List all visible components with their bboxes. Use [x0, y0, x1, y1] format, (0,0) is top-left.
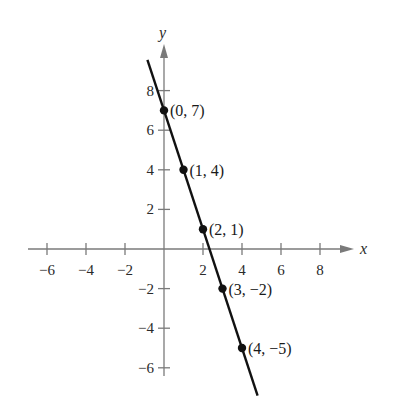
y-axis-label: y [157, 24, 167, 42]
x-tick-label: 4 [238, 262, 246, 278]
data-point [160, 106, 168, 114]
y-axis-arrow-icon [160, 44, 168, 58]
y-tick-label: 4 [147, 162, 155, 178]
y-tick-label: 6 [147, 122, 155, 138]
data-point [199, 225, 207, 233]
cartesian-plot: xy −6−4−224688642−2−4−6 (0, 7)(1, 4)(2, … [0, 0, 404, 401]
ticks: −6−4−224688642−2−4−6 [39, 83, 324, 376]
data-points: (0, 7)(1, 4)(2, 1)(3, −2)(4, −5) [160, 102, 292, 358]
point-label: (3, −2) [229, 281, 273, 299]
x-axis-label: x [359, 240, 367, 257]
y-tick-label: −2 [138, 281, 154, 297]
data-point [238, 344, 246, 352]
point-label: (2, 1) [209, 221, 244, 239]
x-tick-label: −6 [39, 262, 55, 278]
data-point [179, 166, 187, 174]
data-point [218, 284, 226, 292]
point-label: (1, 4) [190, 162, 225, 180]
y-tick-label: −4 [138, 320, 154, 336]
x-tick-label: −4 [78, 262, 94, 278]
chart-container: xy −6−4−224688642−2−4−6 (0, 7)(1, 4)(2, … [0, 0, 404, 401]
x-tick-label: −2 [117, 262, 133, 278]
axes: xy [28, 24, 367, 376]
x-tick-label: 2 [199, 262, 207, 278]
point-label: (0, 7) [170, 102, 205, 120]
y-tick-label: −6 [138, 360, 154, 376]
point-label: (4, −5) [248, 340, 292, 358]
y-tick-label: 2 [147, 201, 155, 217]
x-tick-label: 8 [316, 262, 324, 278]
x-tick-label: 6 [277, 262, 285, 278]
x-axis-arrow-icon [340, 245, 354, 253]
y-tick-label: 8 [147, 83, 155, 99]
